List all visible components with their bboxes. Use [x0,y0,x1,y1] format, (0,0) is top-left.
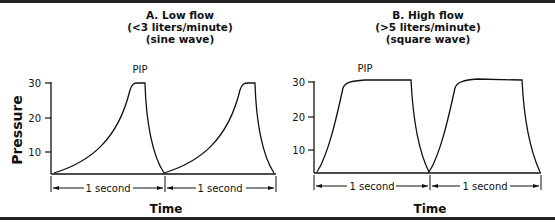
panel-low-flow: A. Low flow (<3 liters/minute) (sine wav… [28,9,276,216]
panel-a-tick-20: 20 [28,113,41,124]
panel-b-tick-20: 20 [292,112,305,123]
panel-a-interval-2: 1 second [197,183,242,194]
panel-b-title: B. High flow [392,9,464,21]
panel-b-subtitle: (>5 liters/minute) [375,21,481,33]
panel-a-x-axis-label: Time [150,202,183,216]
panel-b-interval-1: 1 second [349,181,394,192]
panel-a-subtitle: (<3 liters/minute) [127,21,233,33]
panel-a-wave-type: (sine wave) [146,33,214,45]
panel-a-waveform [54,83,274,173]
panel-a-tick-30: 30 [28,78,41,89]
panel-high-flow: B. High flow (>5 liters/minute) (square … [292,9,541,216]
panel-a-tick-10: 10 [28,147,41,158]
y-axis-label: Pressure [9,95,25,165]
panel-b-tick-30: 30 [292,77,305,88]
panel-b-x-axis-label: Time [414,202,447,216]
panel-b-pip-label: PIP [357,63,372,74]
panel-b-wave-type: (square wave) [386,33,471,45]
panel-b-tick-10: 10 [292,145,305,156]
panel-b-interval-2: 1 second [462,181,507,192]
panel-a-title: A. Low flow [146,9,214,21]
panel-b-waveform [317,79,540,172]
panel-a-interval-1: 1 second [85,183,130,194]
panel-a-pip-label: PIP [132,64,147,75]
pressure-waveform-diagram: Pressure A. Low flow (<3 liters/minute) … [0,0,555,222]
